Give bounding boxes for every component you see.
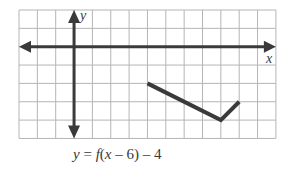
x-axis-label: x (265, 51, 273, 66)
caption-equals: = (80, 146, 96, 162)
x-axis-left-arrow-icon (19, 41, 31, 53)
y-axis-down-arrow-icon (68, 125, 80, 138)
y-axis-label: y (78, 8, 87, 23)
y-axis-up-arrow-icon (68, 10, 80, 23)
caption-rest: – 6) – 4 (111, 146, 161, 162)
caption-y: y (73, 146, 80, 162)
